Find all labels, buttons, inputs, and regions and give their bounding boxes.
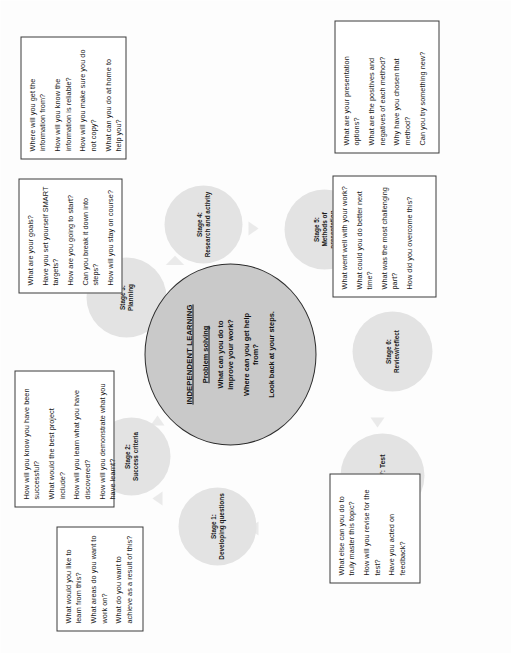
planning-q-3: How are you going to start?: [65, 186, 75, 285]
stage-bubble-1[interactable]: Stage 1: Developing questions: [178, 487, 256, 565]
arrow-stage3-to-stage4-icon: [165, 255, 183, 273]
stage-4-number: Stage 4:: [195, 191, 203, 257]
research-q-3: How will you make sure you do not copy?: [77, 44, 98, 151]
arrow-stage1-to-stage2-icon: [152, 491, 162, 505]
review-q-1: What went well with your work?: [339, 183, 349, 289]
arrow-stage6-to-stage7-icon: [370, 417, 384, 427]
test-q-1: What else can you do to truly master thi…: [336, 481, 357, 575]
success-q-3: How will you learn what you have discove…: [71, 378, 92, 499]
success-q-2: What would the best project include?: [46, 378, 67, 499]
core-title: INDEPENDENT LEARNING: [184, 304, 193, 404]
stage-3-name: Planning: [126, 284, 134, 311]
core-line-1: What can you do to improve your work?: [215, 306, 234, 402]
questions-box-success-criteria: How will you know you have been successf…: [14, 370, 114, 507]
review-q-4: How did you overcome this?: [404, 183, 414, 289]
independent-learning-poster: Stage 1: Developing questions Stage 2: S…: [0, 0, 511, 653]
research-q-2: How will you know the information is rel…: [52, 44, 73, 151]
stage-1-number: Stage 1:: [209, 493, 217, 559]
questions-box-test: What else can you do to truly master thi…: [329, 473, 420, 583]
questions-box-planning: What are your goals? Have you set yourse…: [18, 178, 122, 293]
research-q-4: What can you do at home to help you?: [103, 44, 124, 151]
stage-1-name: Developing questions: [217, 493, 225, 559]
success-q-1: How will you know you have been successf…: [21, 378, 42, 499]
review-q-3: What was the most challenging part?: [379, 183, 400, 289]
planning-q-4: Can you break it down into steps?: [80, 186, 101, 285]
stage-4-name: Research and activity: [203, 191, 211, 257]
stage-bubble-6[interactable]: Stage 6: Review/reflect: [352, 311, 432, 391]
methods-q-4: Can you try something new?: [417, 28, 427, 145]
test-q-2: How will you revise for the test?: [361, 481, 382, 575]
planning-q-5: How will you stay on course?: [105, 186, 115, 285]
questions-box-research-and-activity: Where will you get the information from?…: [20, 36, 126, 159]
arrow-stage4-to-stage5-icon: [248, 221, 258, 235]
developing-q-2: What areas do you want to work on?: [88, 534, 109, 623]
stage-6-name: Review/reflect: [392, 330, 400, 373]
research-q-1: Where will you get the information from?: [27, 44, 48, 151]
questions-box-developing-questions: What would you like to learn from this? …: [56, 526, 143, 631]
stage-6-number: Stage 6:: [384, 330, 392, 373]
stage-2-number: Stage 2:: [123, 431, 131, 480]
methods-q-1: What are your presentation options?: [341, 28, 362, 145]
stage-2-name: Success criteria: [131, 431, 139, 480]
developing-q-1: What would you like to learn from this?: [63, 534, 84, 623]
questions-box-methods-of-presentation: What are your presentation options? What…: [334, 20, 439, 153]
stage-bubble-4[interactable]: Stage 4: Research and activity: [164, 185, 242, 263]
core-line-2: Where can you get help from?: [241, 306, 260, 402]
stage-5-number: Stage 5:: [312, 193, 320, 265]
questions-box-review-reflect: What went well with your work? What coul…: [332, 175, 436, 297]
methods-q-3: Why have you chosen that method?: [391, 28, 412, 145]
diagram-canvas: Stage 1: Developing questions Stage 2: S…: [0, 0, 511, 653]
core-subtitle: Problem solving: [200, 325, 209, 383]
planning-q-1: What are your goals?: [25, 186, 35, 285]
review-q-2: What could you do better next time?: [354, 183, 375, 289]
developing-q-3: What do you want to achieve as a result …: [113, 534, 134, 623]
success-q-4: How will you demonstrate what you have l…: [97, 378, 118, 499]
core-line-3: Look back at your steps.: [266, 311, 276, 398]
test-q-3: Have you acted on feedback?: [386, 481, 407, 575]
planning-q-2: Have you set yourself SMART targets?: [40, 186, 61, 285]
core-independent-learning[interactable]: INDEPENDENT LEARNING Problem solving Wha…: [144, 263, 316, 445]
methods-q-2: What are the positives and negatives of …: [366, 28, 387, 145]
